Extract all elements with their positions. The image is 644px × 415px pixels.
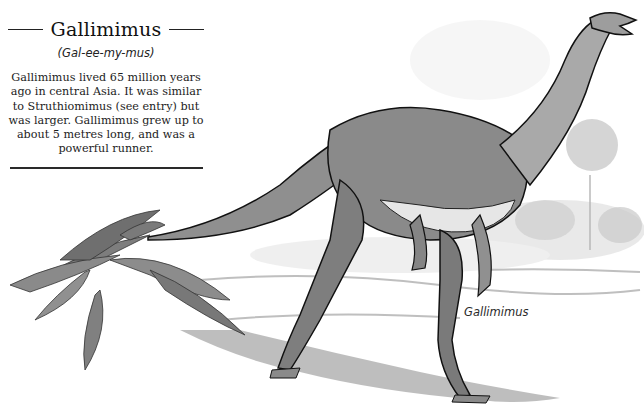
title-rule-left	[8, 29, 43, 30]
illustration-caption: Gallimimus	[464, 305, 528, 319]
section-divider	[10, 167, 203, 169]
pronunciation: (Gal-ee-my-mus)	[8, 46, 204, 60]
ground	[200, 269, 640, 320]
dinosaur-far-foot	[452, 395, 490, 403]
dinosaur-near-foot	[270, 368, 300, 378]
title-rule-right	[169, 29, 204, 30]
entry-title: Gallimimus	[51, 18, 162, 40]
encyclopedia-page: Gallimimus (Gal-ee-my-mus) Gallimimus li…	[0, 0, 644, 415]
entry-sidebar: Gallimimus (Gal-ee-my-mus) Gallimimus li…	[8, 18, 204, 169]
entry-body: Gallimimus lived 65 million years ago in…	[8, 71, 204, 157]
title-row: Gallimimus	[8, 18, 204, 40]
ground-shadow	[180, 330, 560, 402]
